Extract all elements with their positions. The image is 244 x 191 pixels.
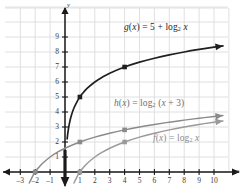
y-axis-label: y	[67, 1, 70, 9]
y-tick-label: 9	[47, 32, 59, 41]
x-tick-label: 10	[205, 176, 223, 185]
y-tick-label: 1	[47, 152, 59, 161]
function-label-g: g(x) = 5 + log2 x	[124, 22, 188, 32]
gridlines	[5, 7, 229, 172]
y-tick-label: 2	[47, 137, 59, 146]
y-tick-label: 3	[47, 122, 59, 131]
y-tick-label: 7	[47, 62, 59, 71]
function-label-f: f(x) = log2 x	[153, 133, 199, 143]
coordinate-plane	[0, 0, 244, 191]
y-tick-label: 6	[47, 77, 59, 86]
graph-figure: –3–2–112345678910123456789 x y g(x) = 5 …	[0, 0, 244, 191]
y-tick-label: 4	[47, 107, 59, 116]
function-label-h: h(x) = log2 (x + 3)	[114, 98, 184, 108]
x-tick-label: –1	[41, 176, 59, 185]
y-tick-label: 8	[47, 47, 59, 56]
y-tick-label: 5	[47, 92, 59, 101]
x-axis-label: x	[236, 167, 239, 175]
